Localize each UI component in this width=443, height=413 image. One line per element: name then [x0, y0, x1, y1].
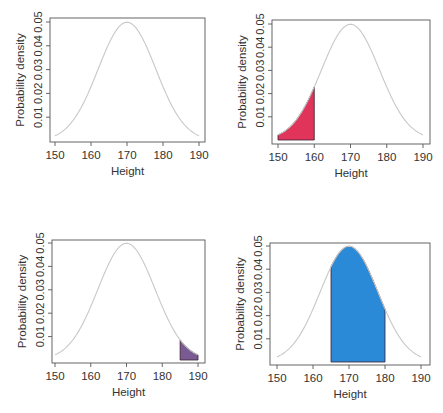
x-tick-label: 170	[339, 372, 358, 384]
y-axis-label: Probability density	[236, 35, 248, 129]
x-tick-label: 160	[305, 151, 324, 163]
x-tick-label: 190	[413, 151, 432, 163]
y-tick-label: 0.01	[252, 328, 264, 349]
x-tick-label: 190	[411, 372, 430, 384]
y-tick-label: 0.03	[32, 59, 44, 80]
y-tick-label: 0.05	[34, 232, 46, 253]
x-tick-label: 150	[268, 151, 287, 163]
x-tick-label: 180	[375, 372, 394, 384]
x-axis-label: Height	[112, 386, 146, 398]
y-tick-label: 0.02	[34, 302, 46, 323]
plot-frame	[50, 18, 205, 142]
x-tick-label: 160	[81, 370, 100, 382]
y-axis-label: Probability density	[234, 257, 246, 351]
x-tick-label: 180	[153, 149, 172, 161]
y-tick-label: 0.01	[34, 326, 46, 347]
chart-panel-top-right: 1501601701801900.010.020.030.040.05Heigh…	[236, 13, 433, 179]
density-curve	[55, 243, 198, 355]
figure-canvas: 1501601701801900.010.020.030.040.05Heigh…	[0, 0, 443, 413]
y-tick-label: 0.04	[34, 256, 46, 277]
chart-panel-bottom-right: 1501601701801900.010.020.030.040.05Heigh…	[234, 235, 431, 400]
y-tick-label: 0.02	[252, 305, 264, 326]
x-tick-label: 150	[45, 370, 64, 382]
shaded-area	[331, 246, 385, 362]
y-tick-label: 0.03	[254, 60, 266, 81]
x-tick-label: 170	[117, 149, 136, 161]
x-tick-label: 160	[81, 149, 100, 161]
x-axis-label: Height	[111, 165, 145, 177]
x-tick-label: 170	[341, 151, 360, 163]
y-tick-label: 0.05	[32, 11, 44, 32]
y-tick-label: 0.02	[32, 83, 44, 104]
x-tick-label: 160	[303, 372, 322, 384]
x-axis-label: Height	[333, 388, 367, 400]
x-tick-label: 190	[189, 149, 208, 161]
y-axis-label: Probability density	[14, 33, 26, 127]
y-tick-label: 0.04	[254, 36, 266, 57]
x-tick-label: 180	[153, 370, 172, 382]
x-tick-label: 190	[188, 370, 207, 382]
y-axis-label: Probability density	[16, 255, 28, 349]
chart-panel-bottom-left: 1501601701801900.010.020.030.040.05Heigh…	[16, 232, 208, 398]
y-tick-label: 0.04	[252, 258, 264, 279]
y-tick-label: 0.05	[254, 13, 266, 34]
y-tick-label: 0.02	[254, 83, 266, 104]
x-tick-label: 180	[377, 151, 396, 163]
y-tick-label: 0.03	[252, 282, 264, 303]
y-tick-label: 0.05	[252, 235, 264, 256]
chart-panel-top-left: 1501601701801900.010.020.030.040.05Heigh…	[14, 11, 209, 177]
y-tick-label: 0.01	[32, 106, 44, 127]
y-tick-label: 0.03	[34, 279, 46, 300]
y-tick-label: 0.04	[32, 35, 44, 56]
x-tick-label: 150	[267, 372, 286, 384]
x-axis-label: Height	[334, 167, 368, 179]
x-tick-label: 150	[45, 149, 64, 161]
density-curve	[55, 22, 199, 135]
y-tick-label: 0.01	[254, 106, 266, 127]
x-tick-label: 170	[117, 370, 136, 382]
